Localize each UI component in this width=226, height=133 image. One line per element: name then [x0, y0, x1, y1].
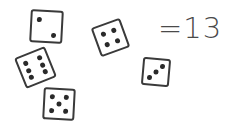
- pip-dot: [28, 74, 35, 81]
- pip-dot: [39, 62, 46, 69]
- pip-dot: [63, 109, 68, 114]
- pip-dot: [51, 32, 56, 37]
- pip-dot: [100, 31, 106, 37]
- die-three-icon: [141, 57, 171, 87]
- pip-dot: [64, 95, 69, 100]
- pip-dot: [23, 60, 30, 67]
- pip-dot: [36, 55, 43, 62]
- pip-dot: [115, 38, 121, 44]
- die-six-icon: [14, 46, 57, 89]
- pip-dot: [50, 94, 55, 99]
- pip-dot: [147, 75, 152, 80]
- pip-dot: [26, 67, 33, 74]
- pip-dot: [104, 42, 110, 48]
- pip-dot: [56, 101, 61, 106]
- die-five-icon: [42, 87, 76, 121]
- die-two-icon: [29, 9, 64, 44]
- pip-dot: [42, 68, 49, 75]
- pip-dot: [37, 17, 42, 22]
- pip-dot: [111, 27, 117, 33]
- die-four-icon: [91, 18, 131, 58]
- pip-dot: [153, 69, 158, 74]
- pip-dot: [160, 64, 165, 69]
- sum-equation: =13: [158, 14, 222, 43]
- pip-dot: [49, 108, 54, 113]
